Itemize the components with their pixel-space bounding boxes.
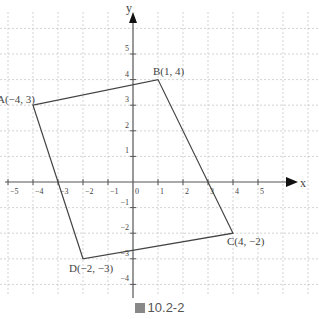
coordinate-plane-figure: xy−5−4−3−2−112345−4−3−2−1123450 A(−4, 3)… xyxy=(0,0,319,300)
figure-box-icon xyxy=(135,303,145,313)
x-tick-label: 4 xyxy=(235,187,239,196)
grid-lines xyxy=(0,12,319,295)
point-label-a: A(−4, 3) xyxy=(0,93,35,106)
y-tick-label: −2 xyxy=(120,223,129,232)
x-axis-label: x xyxy=(300,176,306,190)
y-tick-label: 3 xyxy=(125,95,129,104)
y-axis-label: y xyxy=(126,1,132,15)
x-tick-label: 1 xyxy=(160,187,164,196)
x-axis-arrow-icon xyxy=(286,177,298,187)
x-tick-label: −5 xyxy=(10,187,19,196)
y-tick-label: −1 xyxy=(120,198,129,207)
y-tick-label: −4 xyxy=(120,274,129,283)
y-tick-label: 2 xyxy=(125,121,129,130)
caption-text: 10.2-2 xyxy=(148,300,185,315)
point-label-b: B(1, 4) xyxy=(153,65,185,78)
axes: xy−5−4−3−2−112345−4−3−2−1123450 xyxy=(5,1,306,298)
point-label-d: D(−2, −3) xyxy=(69,262,114,275)
origin-label: 0 xyxy=(135,187,139,196)
y-tick-label: 4 xyxy=(125,70,129,79)
y-tick-label: −3 xyxy=(120,249,129,258)
point-label-c: C(4, −2) xyxy=(227,235,265,248)
figure-caption: 10.2-2 xyxy=(0,300,319,315)
x-tick-label: −2 xyxy=(85,187,94,196)
x-tick-label: −1 xyxy=(110,187,119,196)
x-tick-label: −4 xyxy=(35,187,44,196)
x-tick-label: 5 xyxy=(260,187,264,196)
labels: A(−4, 3)B(1, 4)C(4, −2)D(−2, −3) xyxy=(0,65,265,275)
y-tick-label: 5 xyxy=(125,44,129,53)
y-tick-label: 1 xyxy=(125,146,129,155)
x-tick-label: 2 xyxy=(185,187,189,196)
